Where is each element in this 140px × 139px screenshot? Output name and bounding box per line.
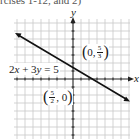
x-int-fraction: 5 2 [49,90,55,105]
y-int-fraction: 5 3 [97,45,103,60]
x-int-y-value: , 0 [56,91,67,103]
numerator: 5 [98,45,102,52]
y-int-x-value: 0, [87,46,95,58]
close-paren: ) [104,44,109,60]
open-paren: ( [43,89,48,105]
denominator: 2 [51,98,55,105]
eq-rhs: = 5 [42,63,59,75]
denominator: 3 [98,53,102,60]
numerator: 5 [51,90,55,97]
y-axis-label: y [71,6,76,18]
close-paren: ) [67,89,72,105]
equation-label: 2x + 3y = 5 [8,63,60,75]
y-intercept-label: ( 0, 5 3 ) [82,44,109,60]
x-intercept-label: ( 5 2 , 0 ) [43,89,73,105]
x-axis-label: x [134,72,139,84]
eq-plus: + 3 [19,63,36,75]
